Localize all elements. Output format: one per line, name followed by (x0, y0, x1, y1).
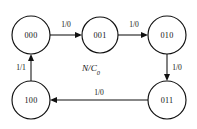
state-011-label: 011 (161, 96, 174, 105)
fsm-svg: 1/0 1/0 1/0 1/0 1/1 000 (0, 0, 197, 129)
transition-000-to-001-label: 1/0 (61, 20, 71, 29)
center-annotation-base: N/C (81, 63, 98, 73)
state-node-011[interactable]: 011 (148, 81, 186, 119)
transition-011-to-100-label: 1/0 (94, 88, 104, 97)
state-node-000[interactable]: 000 (12, 16, 50, 54)
transition-011-to-100-arrowhead (50, 97, 57, 103)
state-100-label: 100 (25, 96, 38, 105)
transition-001-to-010: 1/0 (118, 20, 148, 39)
transition-001-to-010-arrowhead (141, 32, 148, 38)
transition-100-to-000-label: 1/1 (16, 63, 26, 72)
transition-001-to-010-label: 1/0 (129, 20, 139, 29)
transition-000-to-001-arrowhead (75, 32, 82, 38)
state-diagram-canvas: 1/0 1/0 1/0 1/0 1/1 000 (0, 0, 197, 129)
transition-011-to-100: 1/0 (50, 88, 148, 104)
transition-100-to-000: 1/1 (16, 54, 34, 81)
center-annotation-subscript: 0 (97, 69, 101, 76)
state-node-100[interactable]: 100 (12, 81, 50, 119)
state-node-010[interactable]: 010 (148, 16, 186, 54)
state-001-label: 001 (94, 31, 107, 40)
state-node-001[interactable]: 001 (82, 17, 118, 53)
transition-000-to-001: 1/0 (50, 20, 82, 39)
transition-010-to-011-label: 1/0 (172, 63, 182, 72)
state-000-label: 000 (25, 31, 38, 40)
transition-010-to-011: 1/0 (164, 54, 182, 81)
transition-100-to-000-arrowhead (28, 54, 34, 61)
transition-010-to-011-arrowhead (164, 74, 170, 81)
center-annotation: N/C0 (81, 63, 101, 76)
state-010-label: 010 (161, 31, 174, 40)
